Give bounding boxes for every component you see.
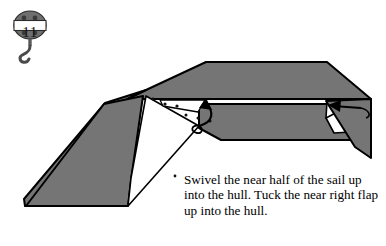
origami-instruction-page: 11 bbox=[0, 0, 386, 246]
instruction-caption: Swivel the near half of the sail up into… bbox=[184, 172, 380, 218]
hull-top-deck bbox=[127, 62, 371, 99]
left-lower-wedge bbox=[26, 96, 143, 206]
